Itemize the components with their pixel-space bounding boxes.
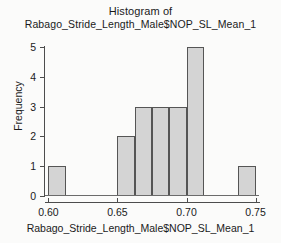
histogram-bar: [48, 166, 65, 196]
histogram-bar: [135, 107, 152, 196]
histogram-bars: [45, 47, 259, 196]
y-axis-tick: [40, 47, 44, 48]
histogram-bar: [238, 166, 255, 196]
y-axis-tick-label: 0: [8, 191, 36, 201]
x-axis-line: [45, 202, 260, 203]
x-axis-tick: [187, 198, 188, 203]
y-axis-tick-label-wrap: 4: [6, 72, 36, 82]
x-axis-tick-label: 0.65: [97, 206, 137, 218]
histogram-figure: Histogram of Rabago_Stride_Length_Male$N…: [0, 0, 281, 243]
x-axis-tick-label: 0.75: [236, 206, 276, 218]
y-axis-tick-label: 4: [8, 72, 36, 82]
y-axis-tick-label: 2: [8, 131, 36, 141]
chart-title-line-2: Rabago_Stride_Length_Male$NOP_SL_Mean_1: [0, 18, 281, 31]
histogram-bar: [187, 47, 204, 196]
x-axis-tick-label: 0.70: [167, 206, 207, 218]
x-axis-tick: [48, 198, 49, 203]
x-axis-title: Rabago_Stride_Length_Male$NOP_SL_Mean_1: [0, 222, 281, 234]
y-axis-tick-label-wrap: 3: [6, 102, 36, 112]
y-axis-tick: [40, 77, 44, 78]
y-axis-tick-label: 5: [8, 42, 36, 52]
y-axis-tick: [40, 136, 44, 137]
y-axis-tick-label-wrap: 2: [6, 131, 36, 141]
x-axis-tick: [117, 198, 118, 203]
chart-title: Histogram of Rabago_Stride_Length_Male$N…: [0, 5, 281, 31]
y-axis-tick: [40, 107, 44, 108]
chart-title-line-1: Histogram of: [0, 5, 281, 18]
plot-baseline: [45, 195, 259, 196]
x-axis-tick: [256, 198, 257, 203]
histogram-bar: [117, 136, 134, 196]
histogram-bar: [152, 107, 169, 196]
x-axis-tick-label: 0.60: [28, 206, 68, 218]
y-axis-tick-label-wrap: 5: [6, 42, 36, 52]
y-axis-tick: [40, 166, 44, 167]
y-axis-tick-label-wrap: 0: [6, 191, 36, 201]
y-axis-tick: [40, 196, 44, 197]
plot-area: [45, 47, 259, 196]
y-axis-tick-label: 1: [8, 161, 36, 171]
histogram-bar: [169, 107, 186, 196]
y-axis-tick-label-wrap: 1: [6, 161, 36, 171]
y-axis-tick-label: 3: [8, 102, 36, 112]
